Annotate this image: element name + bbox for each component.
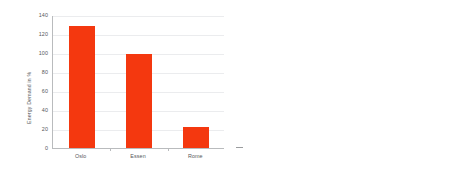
area-chart-panel: Energy Demand in kWh/m²a 020040060080010…	[236, 0, 472, 179]
bar-essen[interactable]	[126, 54, 152, 148]
bar-chart-x-tick-labels: OsloEssenRome	[52, 154, 224, 166]
bar-chart-y-tick-labels: 020406080100120140	[26, 0, 48, 179]
bar-chart-x-tickmark	[168, 148, 169, 151]
bar-chart-panel: Energy Demand in % 020406080100120140 Os…	[0, 0, 236, 179]
bar-chart-plot-area	[52, 16, 224, 149]
bar-chart-y-tick: 20	[42, 127, 48, 132]
bar-chart-y-tick: 140	[39, 13, 48, 18]
two-chart-figure: Energy Demand in % 020406080100120140 Os…	[0, 0, 472, 179]
bar-chart-y-tick: 0	[45, 146, 48, 151]
bar-chart-x-tick-essen: Essen	[109, 154, 166, 159]
bar-chart-y-tick: 120	[39, 32, 48, 37]
bar-chart-y-tick: 40	[42, 108, 48, 113]
bar-chart-x-tick-oslo: Oslo	[52, 154, 109, 159]
bar-chart-y-tick: 60	[42, 89, 48, 94]
figure-edge-mark	[236, 147, 243, 148]
bar-chart-x-tickmark	[110, 148, 111, 151]
bar-chart-x-tick-rome: Rome	[167, 154, 224, 159]
bar-rome[interactable]	[183, 127, 209, 148]
bar-oslo[interactable]	[69, 26, 95, 148]
bar-chart-gridline	[53, 16, 224, 17]
bar-chart-y-tick: 100	[39, 51, 48, 56]
bar-chart-y-tick: 80	[42, 70, 48, 75]
